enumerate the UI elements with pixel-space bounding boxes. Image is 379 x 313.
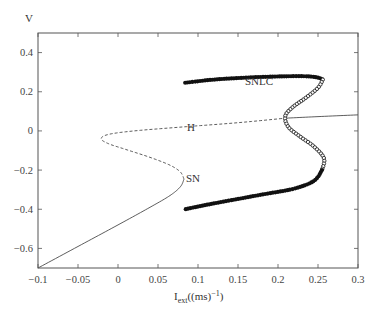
x-tick-label: 0.15 bbox=[229, 274, 247, 285]
annotation-sn: SN bbox=[186, 172, 200, 184]
y-tick-label: 0.4 bbox=[20, 47, 34, 58]
y-tick-label: 0 bbox=[28, 125, 33, 136]
x-tick-label: 0.2 bbox=[271, 274, 284, 285]
x-tick-label: −0.05 bbox=[66, 274, 90, 285]
x-tick-label: −0.1 bbox=[28, 274, 47, 285]
x-tick-label: 0.3 bbox=[351, 274, 364, 285]
x-axis-title-sup: −1 bbox=[211, 289, 220, 298]
equilibrium-branch bbox=[285, 115, 358, 118]
bifurcation-diagram: −0.1−0.0500.050.10.150.20.250.3−0.6−0.4−… bbox=[0, 0, 379, 313]
x-tick-label: 0.1 bbox=[191, 274, 204, 285]
x-axis-title-close: ) bbox=[220, 290, 224, 303]
y-tick-label: −0.2 bbox=[14, 165, 33, 176]
x-tick-label: 0 bbox=[115, 274, 120, 285]
y-tick-label: −0.4 bbox=[14, 204, 34, 215]
x-tick-label: 0.25 bbox=[309, 274, 327, 285]
axes-frame bbox=[38, 33, 358, 268]
y-tick-label: −0.6 bbox=[14, 243, 33, 254]
x-tick-label: 0.05 bbox=[149, 274, 167, 285]
x-axis-title: Iext((ms)−1) bbox=[174, 289, 224, 305]
axis-ticks: −0.1−0.0500.050.10.150.20.250.3−0.6−0.4−… bbox=[14, 33, 365, 285]
annotation-h: H bbox=[187, 121, 195, 133]
y-axis-title: V bbox=[25, 12, 33, 24]
annotation-snlc: SNLC bbox=[245, 75, 273, 87]
y-tick-label: 0.2 bbox=[20, 86, 33, 97]
x-axis-title-rest: ((ms) bbox=[187, 290, 211, 303]
limit-cycle-marker bbox=[184, 207, 188, 211]
equilibrium-branch bbox=[38, 179, 184, 268]
